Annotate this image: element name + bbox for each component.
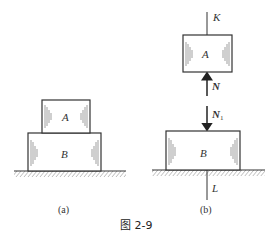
panel-a: A B (a)	[14, 100, 126, 216]
block-b-label-b: B	[200, 147, 207, 159]
ground-hatch-a	[14, 171, 126, 177]
force-n-label: N	[211, 80, 221, 92]
block-a-label-b: A	[201, 48, 209, 60]
line-l-label: L	[211, 182, 218, 194]
force-n1-label: N1	[211, 108, 224, 122]
figure-caption: 图 2-9	[120, 219, 152, 232]
line-k-label: K	[212, 11, 221, 23]
block-a-label-a: A	[61, 111, 69, 123]
ground-hatch-b	[152, 170, 265, 176]
panel-a-label: (a)	[58, 204, 69, 216]
figure-2-9: A B (a) K A N N1 B L (b) 图 2-9	[0, 0, 271, 242]
panel-b-label: (b)	[200, 204, 212, 216]
panel-b: K A N N1 B L (b)	[152, 11, 265, 216]
block-b-label-a: B	[61, 148, 68, 160]
